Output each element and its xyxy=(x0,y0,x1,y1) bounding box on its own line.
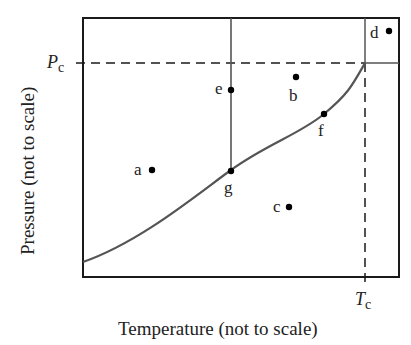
critical-temperature-label: Tc xyxy=(355,289,371,312)
point-label-b: b xyxy=(289,86,298,105)
point-label-f: f xyxy=(318,121,324,140)
critical-pressure-label: Pc xyxy=(46,52,64,75)
point-c xyxy=(286,204,292,210)
point-label-d: d xyxy=(370,23,379,42)
phase-diagram: a b c d e f g Pc Tc Temperature (not to … xyxy=(0,0,411,345)
point-d xyxy=(386,28,392,34)
point-f xyxy=(321,111,327,117)
x-axis-label: Temperature (not to scale) xyxy=(118,318,318,340)
plot-frame xyxy=(83,18,399,277)
point-e xyxy=(228,87,234,93)
point-label-e: e xyxy=(215,79,223,98)
point-label-a: a xyxy=(134,160,142,179)
point-b xyxy=(293,74,299,80)
point-g xyxy=(228,168,234,174)
y-axis-label: Pressure (not to scale) xyxy=(17,87,39,255)
point-label-c: c xyxy=(273,197,281,216)
point-a xyxy=(149,167,155,173)
point-label-g: g xyxy=(224,178,233,197)
vapor-pressure-curve xyxy=(83,63,365,262)
